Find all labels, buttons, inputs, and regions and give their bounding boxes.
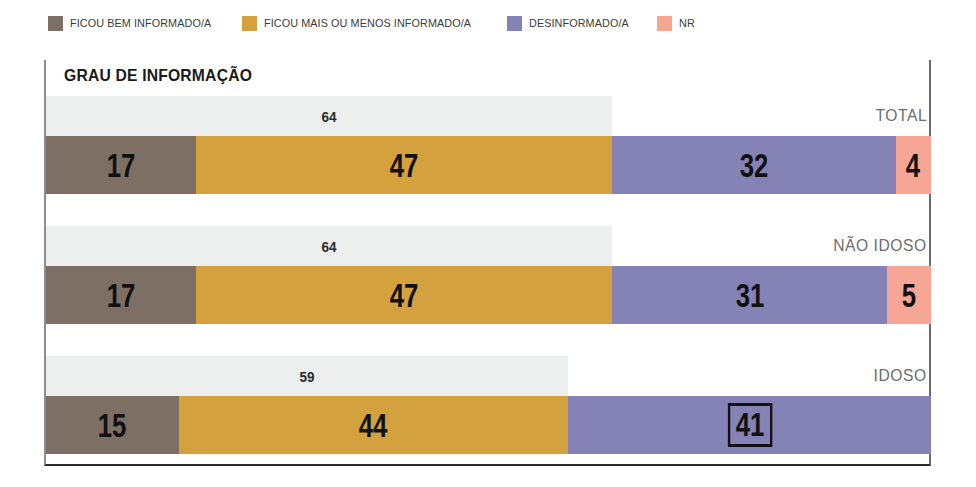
legend-item[interactable]: FICOU MAIS OU MENOS INFORMADO/A bbox=[242, 16, 484, 31]
summary-bar-row: 64TOTAL bbox=[46, 96, 931, 136]
legend-item[interactable]: DESINFORMADO/A bbox=[507, 16, 635, 31]
summary-bar-value: 64 bbox=[322, 108, 337, 125]
bar-segment[interactable]: 41 bbox=[568, 396, 931, 454]
bar-segment[interactable]: 31 bbox=[612, 266, 886, 324]
bar-segment[interactable]: 4 bbox=[896, 136, 931, 194]
page-title: GRAU DE INFORMAÇÃO bbox=[64, 66, 252, 85]
bar-segment-value: 47 bbox=[390, 149, 419, 182]
summary-bar-value: 59 bbox=[300, 368, 315, 385]
bar-segment-value: 5 bbox=[902, 279, 916, 312]
stacked-bar-row: 1747324 bbox=[46, 136, 931, 194]
row-category-label: TOTAL bbox=[875, 106, 927, 126]
bar-segment[interactable]: 47 bbox=[196, 266, 612, 324]
bar-segment[interactable]: 17 bbox=[46, 136, 196, 194]
legend-item-label: NR bbox=[679, 17, 695, 29]
summary-bar-value: 64 bbox=[322, 238, 337, 255]
bar-segment-value: 31 bbox=[735, 279, 764, 312]
legend-item-label: FICOU BEM INFORMADO/A bbox=[70, 17, 211, 29]
chart-page: FICOU BEM INFORMADO/AFICOU MAIS OU MENOS… bbox=[0, 0, 976, 487]
legend-item-label: FICOU MAIS OU MENOS INFORMADO/A bbox=[264, 17, 471, 29]
stacked-bar-row: 154441 bbox=[46, 396, 931, 454]
chart-plot-area: 64TOTAL174732464NÃO IDOSO174731559IDOSO1… bbox=[46, 96, 931, 464]
legend-swatch-icon bbox=[507, 16, 522, 31]
chart-legend: FICOU BEM INFORMADO/AFICOU MAIS OU MENOS… bbox=[48, 12, 718, 34]
bar-segment[interactable]: 44 bbox=[179, 396, 568, 454]
bar-segment-value: 17 bbox=[107, 149, 136, 182]
bar-segment-value: 15 bbox=[98, 409, 127, 442]
stacked-bar-row: 1747315 bbox=[46, 266, 931, 324]
bar-segment[interactable]: 5 bbox=[887, 266, 931, 324]
legend-swatch-icon bbox=[657, 16, 672, 31]
legend-swatch-icon bbox=[242, 16, 257, 31]
bar-segment[interactable]: 32 bbox=[612, 136, 895, 194]
summary-bar-row: 64NÃO IDOSO bbox=[46, 226, 931, 266]
legend-swatch-icon bbox=[48, 16, 63, 31]
bar-segment-value: 44 bbox=[359, 409, 388, 442]
bar-segment-value: 47 bbox=[390, 279, 419, 312]
row-category-label: NÃO IDOSO bbox=[833, 236, 927, 256]
row-category-label: IDOSO bbox=[874, 366, 927, 386]
bar-segment-value: 32 bbox=[740, 149, 769, 182]
legend-item[interactable]: NR bbox=[657, 16, 696, 31]
bar-segment-value: 4 bbox=[906, 149, 920, 182]
bar-segment[interactable]: 15 bbox=[46, 396, 179, 454]
legend-item-label: DESINFORMADO/A bbox=[529, 17, 629, 29]
bar-segment-value: 17 bbox=[107, 279, 136, 312]
bar-segment[interactable]: 17 bbox=[46, 266, 196, 324]
bar-segment[interactable]: 47 bbox=[196, 136, 612, 194]
bar-segment-value-highlighted: 41 bbox=[727, 403, 771, 447]
summary-bar-row: 59IDOSO bbox=[46, 356, 931, 396]
legend-item[interactable]: FICOU BEM INFORMADO/A bbox=[48, 16, 220, 31]
